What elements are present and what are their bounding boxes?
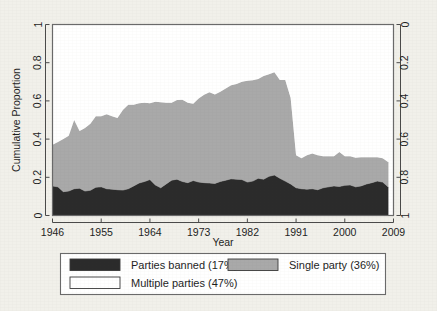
- x-axis-tick-label: 2009: [382, 226, 406, 238]
- legend-label-parties-banned: Parties banned (17%): [131, 259, 237, 271]
- y-axis-left-tick-label: 0.2: [32, 170, 44, 185]
- y-axis-right-tick-label: 0.8: [399, 170, 411, 185]
- x-axis-title: Year: [212, 236, 234, 248]
- y-axis-right-tick-label: 1: [399, 212, 411, 218]
- y-axis-left-tick-label: 0: [32, 212, 44, 218]
- legend-swatch-single-party: [228, 259, 278, 271]
- y-axis-left-tick-label: 1: [32, 21, 44, 27]
- y-axis-right-tick-label: 0.2: [399, 55, 411, 70]
- x-axis-tick-label: 1955: [90, 226, 114, 238]
- y-axis-right-tick-label: 0.6: [399, 132, 411, 147]
- y-axis-right-tick-label: 0.4: [399, 93, 411, 108]
- legend-label-single-party: Single party (36%): [289, 259, 380, 271]
- y-axis-title: Cumulative Proportion: [10, 68, 22, 172]
- legend-swatch-parties-banned: [70, 259, 120, 271]
- figure-container: 00.20.40.60.81 00.20.40.60.81 1946195519…: [0, 0, 437, 311]
- y-axis-left-tick-label: 0.6: [32, 93, 44, 108]
- x-axis-tick-label: 1991: [284, 226, 308, 238]
- legend: Parties banned (17%) Single party (36%) …: [61, 254, 386, 295]
- y-axis-right-tick-label: 0: [399, 21, 411, 27]
- stacked-area-series: [53, 25, 389, 216]
- x-axis-tick-label: 2000: [333, 226, 357, 238]
- x-axis-tick-label: 1946: [41, 226, 65, 238]
- chart-svg: 00.20.40.60.81 00.20.40.60.81 1946195519…: [0, 0, 437, 311]
- x-axis-tick-label: 1973: [187, 226, 211, 238]
- legend-swatch-multiple-parties: [70, 277, 120, 289]
- x-axis-tick-label: 1982: [236, 226, 260, 238]
- legend-label-multiple-parties: Multiple parties (47%): [131, 277, 237, 289]
- x-axis-tick-label: 1964: [138, 226, 162, 238]
- y-axis-left-tick-label: 0.4: [32, 132, 44, 147]
- y-axis-left-tick-label: 0.8: [32, 55, 44, 70]
